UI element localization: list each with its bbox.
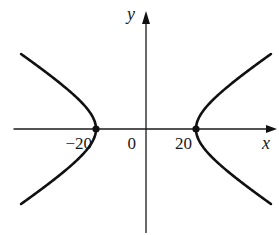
y-axis-label: y [125,4,135,24]
x-tick-labels: −20 0 20 [65,134,192,153]
x-axis-arrow-icon [266,125,277,133]
right-vertex [192,125,199,132]
left-vertex [92,125,99,132]
hyperbola-chart: x y −20 0 20 [0,0,279,235]
x-axis-label: x [261,133,270,153]
y-axis-arrow-icon [142,11,150,24]
x-tick-label-20: 20 [175,134,192,153]
x-tick-label-0: 0 [128,134,137,153]
axes: x y [14,4,278,233]
